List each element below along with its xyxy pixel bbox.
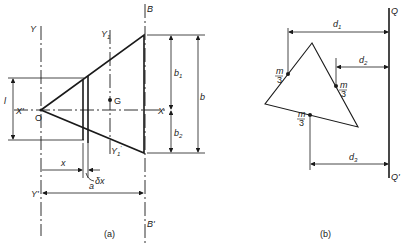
x-prime-label: X' [15,106,24,116]
fraction-m3-right: m 3 [339,80,348,99]
x-label: x [60,158,66,168]
svg-text:d3: d3 [349,152,358,163]
svg-text:b2: b2 [174,128,183,139]
svg-text:b1: b1 [174,68,182,79]
svg-text:d2: d2 [359,55,368,66]
point-m3-left [286,72,290,76]
origin-point [40,109,43,112]
y-prime-label: Y' [31,189,39,199]
b-prime-label: B' [147,219,155,229]
o-label: O [35,113,42,123]
svg-text:3: 3 [277,75,282,85]
dx-label: δx [95,176,105,186]
point-m3-bottom [308,113,312,117]
fraction-m3-left: m 3 [275,66,284,85]
b-label: b [200,92,205,102]
l-label: l [4,96,7,106]
y-label: Y [30,24,37,34]
svg-text:3: 3 [299,118,304,128]
svg-text:3: 3 [341,89,346,99]
g-label: G [114,96,121,106]
diagram-canvas: l b1 b2 b x δx a G Y Y' Y1 Y1' B B' X X' [0,0,406,247]
x-axis-label: X [157,106,165,116]
caption-b: (b) [320,229,331,239]
b-axis-label: B [147,4,153,14]
point-m3-right [334,84,338,88]
a-label: a [89,181,94,191]
fraction-m3-bottom: m 3 [297,109,306,128]
centroid-g [108,98,112,102]
svg-text:Y1: Y1 [101,29,110,40]
q-prime-label: Q' [391,172,400,182]
caption-a: (a) [104,229,115,239]
figure-b: Q Q' d1 d2 d3 m 3 m 3 m 3 [265,6,400,239]
figure-a: l b1 b2 b x δx a G Y Y' Y1 Y1' B B' X X' [4,4,205,246]
svg-text:Y1': Y1' [111,145,122,157]
q-label: Q [391,6,398,16]
triangle-plate [41,35,144,153]
svg-text:d1: d1 [333,19,341,30]
